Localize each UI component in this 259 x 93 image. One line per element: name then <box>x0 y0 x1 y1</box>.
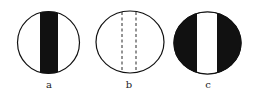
label-c: c <box>205 79 211 90</box>
white-band <box>197 10 217 76</box>
panel-b: b <box>96 11 164 90</box>
label-a: a <box>46 79 52 90</box>
label-b: b <box>126 79 132 90</box>
panel-a: a <box>18 10 80 90</box>
panel-c: c <box>174 10 241 90</box>
figure-diagram: a b c <box>0 0 259 93</box>
black-band <box>40 10 58 76</box>
circle-b <box>96 11 164 73</box>
